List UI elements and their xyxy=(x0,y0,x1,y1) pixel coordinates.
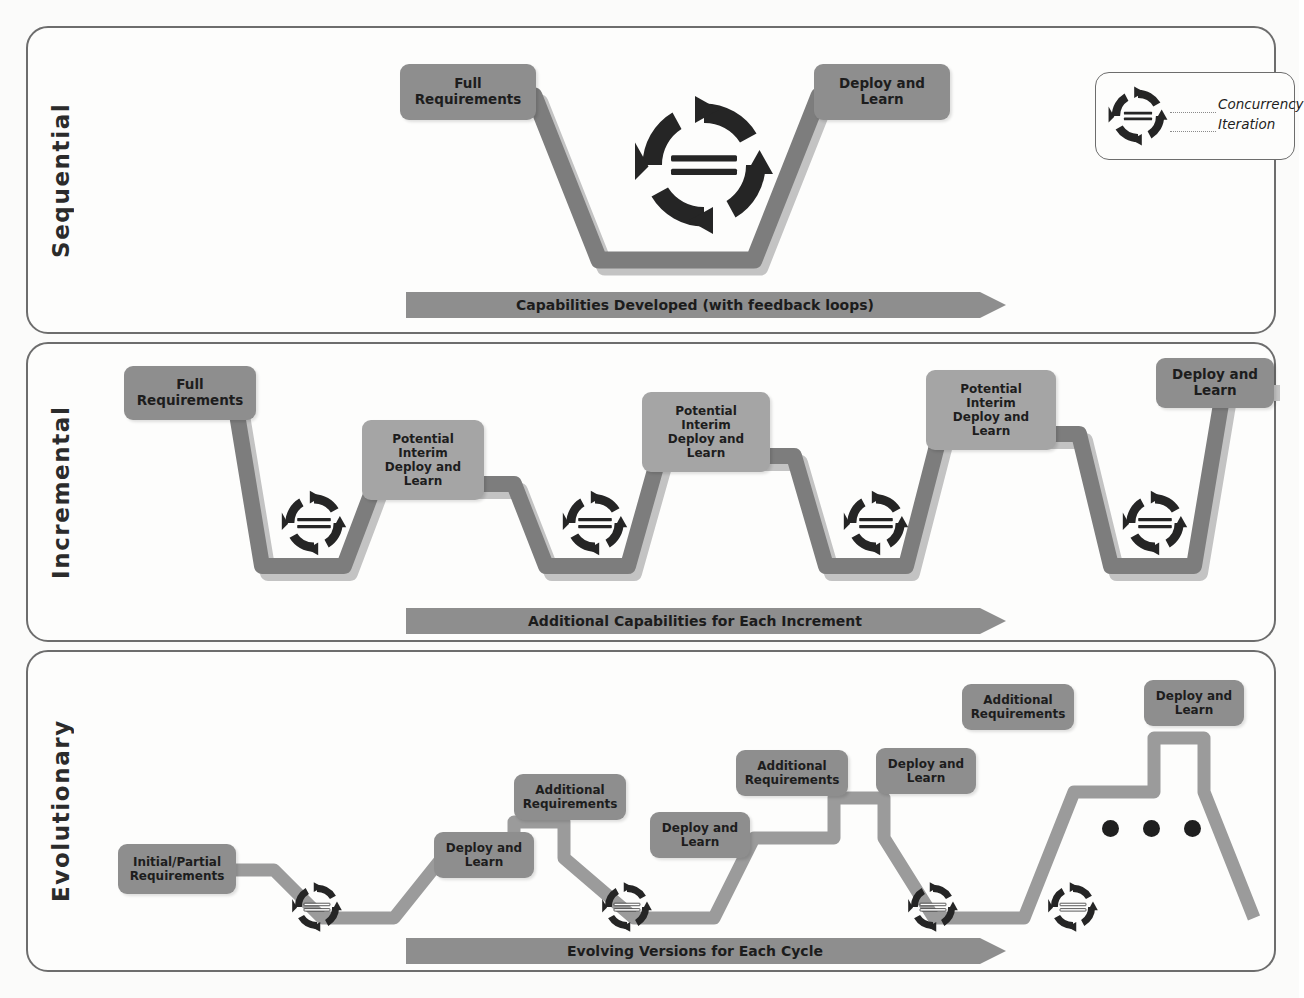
node-seq-full-requirements: Full Requirements xyxy=(400,64,536,120)
node-evo-additional-requirements-3: Additional Requirements xyxy=(962,684,1074,730)
node-evo-deploy-and-learn-2: Deploy and Learn xyxy=(650,812,750,858)
panel-label-incremental: Incremental xyxy=(28,344,94,640)
node-inc-potential-interim-2: Potential Interim Deploy and Learn xyxy=(642,392,770,472)
legend-leader-concurrency xyxy=(1170,112,1216,113)
node-evo-deploy-and-learn-4: Deploy and Learn xyxy=(1144,680,1244,726)
continuation-dot xyxy=(1102,820,1119,837)
node-inc-deploy-and-learn: Deploy and Learn xyxy=(1156,358,1274,408)
node-inc-potential-interim-3: Potential Interim Deploy and Learn xyxy=(926,370,1056,450)
concurrency-iteration-icon xyxy=(841,488,911,562)
concurrency-iteration-icon xyxy=(1046,880,1100,938)
flow-arrow-label: Additional Capabilities for Each Increme… xyxy=(528,613,862,629)
concurrency-iteration-icon xyxy=(906,880,960,938)
panel-incremental: Incremental Full Requirements Potential … xyxy=(26,342,1276,642)
node-evo-additional-requirements-1: Additional Requirements xyxy=(514,774,626,820)
flow-arrow-evolutionary: Evolving Versions for Each Cycle xyxy=(406,938,1006,964)
concurrency-iteration-icon xyxy=(1120,488,1190,562)
node-evo-deploy-and-learn-1: Deploy and Learn xyxy=(434,832,534,878)
flow-arrow-label: Capabilities Developed (with feedback lo… xyxy=(516,297,874,313)
node-inc-full-requirements: Full Requirements xyxy=(124,366,256,420)
panel-sequential: Sequential Full Requirements Deploy and … xyxy=(26,26,1276,334)
node-evo-initial-partial-requirements: Initial/Partial Requirements xyxy=(118,844,236,894)
panel-body-incremental: Full Requirements Potential Interim Depl… xyxy=(94,344,1274,640)
panel-label-evolutionary: Evolutionary xyxy=(28,652,94,970)
panel-body-evolutionary: Initial/Partial Requirements Deploy and … xyxy=(94,652,1274,970)
panel-label-sequential: Sequential xyxy=(28,28,94,332)
legend-text: Concurrency Iteration xyxy=(1218,95,1304,134)
legend-concurrency-iteration-icon xyxy=(1106,84,1170,152)
flow-arrow-incremental: Additional Capabilities for Each Increme… xyxy=(406,608,1006,634)
concurrency-iteration-icon xyxy=(279,488,349,562)
legend-label-concurrency: Concurrency xyxy=(1218,95,1304,115)
continuation-dot xyxy=(1143,820,1160,837)
node-evo-deploy-and-learn-3: Deploy and Learn xyxy=(876,748,976,794)
incremental-path-layer xyxy=(94,344,1274,640)
node-inc-potential-interim-1: Potential Interim Deploy and Learn xyxy=(362,420,484,500)
node-evo-additional-requirements-2: Additional Requirements xyxy=(736,750,848,796)
concurrency-iteration-icon xyxy=(600,880,654,938)
legend-label-iteration: Iteration xyxy=(1218,115,1304,135)
panel-evolutionary: Evolutionary Initial/Partial Requirement… xyxy=(26,650,1276,972)
legend-box: Concurrency Iteration xyxy=(1095,72,1295,160)
continuation-dot xyxy=(1184,820,1201,837)
concurrency-iteration-icon xyxy=(560,488,630,562)
concurrency-iteration-icon xyxy=(290,880,344,938)
continuation-ellipsis xyxy=(1102,820,1201,837)
panel-body-sequential: Full Requirements Deploy and Learn xyxy=(94,28,1274,332)
flow-arrow-label: Evolving Versions for Each Cycle xyxy=(567,943,823,959)
node-seq-deploy-and-learn: Deploy and Learn xyxy=(814,64,950,120)
legend-leader-iteration xyxy=(1170,131,1216,132)
flow-arrow-sequential: Capabilities Developed (with feedback lo… xyxy=(406,292,1006,318)
concurrency-iteration-icon xyxy=(629,90,779,244)
